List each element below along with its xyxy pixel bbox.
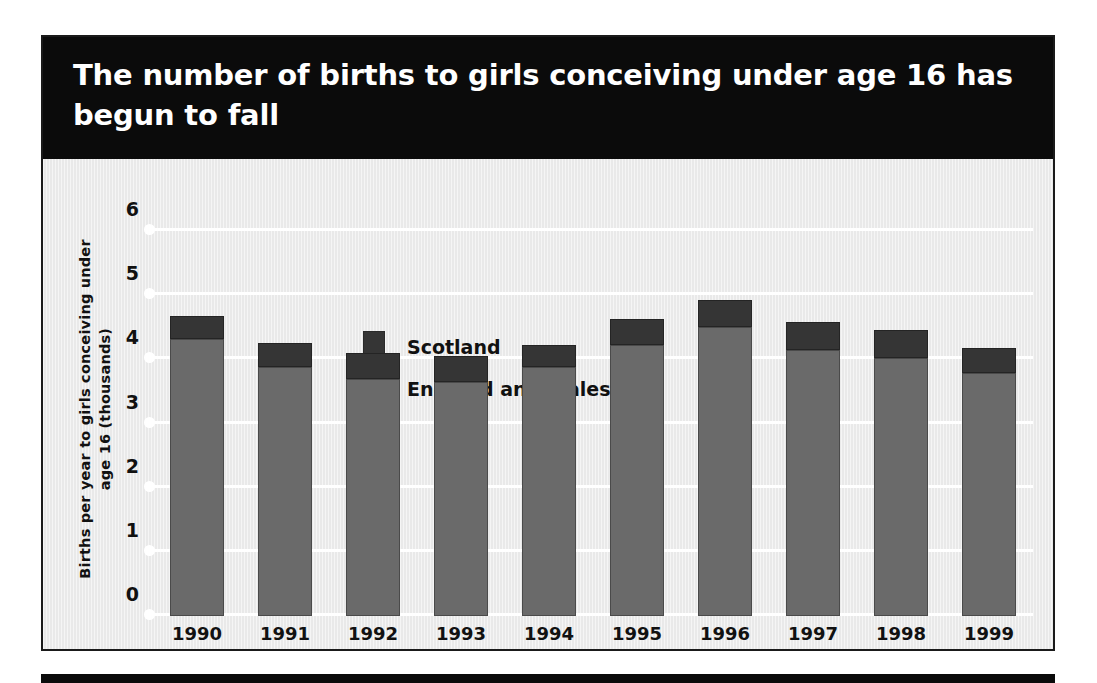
bar-segment-england-and-wales-1997 — [786, 350, 840, 616]
x-axis-label-1998: 1998 — [864, 623, 938, 644]
screenshot-root: The number of births to girls conceiving… — [0, 0, 1097, 683]
bar-segment-scotland-1991 — [258, 343, 312, 367]
bar-segment-england-and-wales-1993 — [434, 382, 488, 616]
bar-segment-scotland-1998 — [874, 330, 928, 358]
bar-series-container — [153, 231, 1033, 616]
bar-segment-england-and-wales-1990 — [170, 339, 224, 616]
page-title: The number of births to girls conceiving… — [73, 55, 1023, 135]
bar-segment-england-and-wales-1995 — [610, 345, 664, 616]
x-axis-label-1997: 1997 — [776, 623, 850, 644]
bar-segment-scotland-1992 — [346, 353, 400, 379]
bar-segment-scotland-1990 — [170, 316, 224, 339]
y-tick-label-5: 5 — [99, 262, 139, 284]
bar-segment-england-and-wales-1996 — [698, 327, 752, 616]
x-axis-label-1999: 1999 — [952, 623, 1026, 644]
y-tick-label-3: 3 — [99, 391, 139, 413]
bar-segment-scotland-1995 — [610, 319, 664, 345]
y-axis-title-line-1: Births per year to girls conceiving unde… — [77, 239, 93, 579]
y-tick-label-1: 1 — [99, 519, 139, 541]
plot-panel: Births per year to girls conceiving unde… — [43, 159, 1053, 649]
bar-segment-england-and-wales-1992 — [346, 379, 400, 616]
bar-segment-england-and-wales-1999 — [962, 373, 1016, 616]
bar-segment-england-and-wales-1994 — [522, 367, 576, 616]
x-axis-label-1993: 1993 — [424, 623, 498, 644]
bar-segment-scotland-1999 — [962, 348, 1016, 374]
x-axis-label-1995: 1995 — [600, 623, 674, 644]
bar-segment-scotland-1997 — [786, 322, 840, 350]
x-axis-label-1990: 1990 — [160, 623, 234, 644]
chart-title-bar: The number of births to girls conceiving… — [43, 37, 1053, 159]
y-tick-label-2: 2 — [99, 455, 139, 477]
y-tick-label-6: 6 — [99, 198, 139, 220]
x-axis-label-1996: 1996 — [688, 623, 762, 644]
bar-segment-england-and-wales-1991 — [258, 367, 312, 616]
plot-area: 0123456 19901991199219931994199519961997… — [153, 231, 1033, 616]
bottom-black-strip — [41, 674, 1055, 683]
bar-segment-scotland-1994 — [522, 345, 576, 367]
x-axis-label-1994: 1994 — [512, 623, 586, 644]
bar-segment-scotland-1996 — [698, 300, 752, 328]
bar-segment-england-and-wales-1998 — [874, 358, 928, 616]
chart-figure: The number of births to girls conceiving… — [41, 35, 1055, 651]
y-tick-label-0: 0 — [99, 583, 139, 605]
x-axis-label-1991: 1991 — [248, 623, 322, 644]
bar-segment-scotland-1993 — [434, 356, 488, 382]
x-axis-label-1992: 1992 — [336, 623, 410, 644]
y-tick-label-4: 4 — [99, 326, 139, 348]
